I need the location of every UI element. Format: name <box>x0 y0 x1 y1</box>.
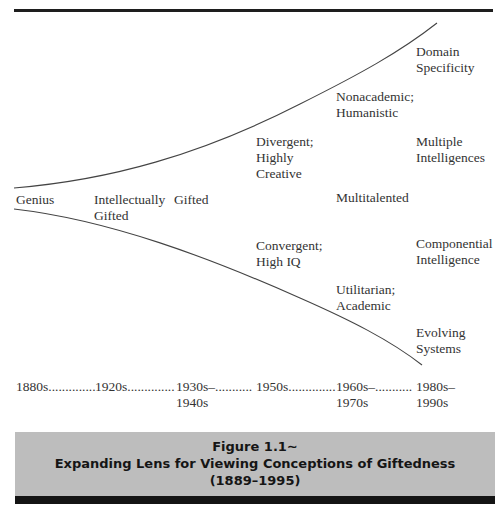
caption-figure-number: Figure 1.1∼ <box>15 438 495 455</box>
label-componential-intelligence: Componential Intelligence <box>416 236 493 268</box>
timeline-1950s: 1950s.............. <box>256 379 336 395</box>
caption-text: Figure 1.1∼ Expanding Lens for Viewing C… <box>15 438 495 489</box>
label-divergent-highly-creative: Divergent; Highly Creative <box>256 134 314 182</box>
label-convergent-high-iq: Convergent; High IQ <box>256 238 323 270</box>
timeline-1930s-1940s: 1930s–........... 1940s <box>176 379 252 411</box>
timeline-1920s: 1920s.............. <box>95 379 175 395</box>
label-domain-specificity: Domain Specificity <box>416 44 474 76</box>
timeline-1980s-1990s: 1980s– 1990s <box>416 379 455 411</box>
label-intellectually-gifted: Intellectually Gifted <box>94 192 165 224</box>
label-multitalented: Multitalented <box>336 190 409 206</box>
label-utilitarian-academic: Utilitarian; Academic <box>336 282 395 314</box>
timeline-1960s-1970s: 1960s–........... 1970s <box>336 379 412 411</box>
label-multiple-intelligences: Multiple Intelligences <box>416 134 485 166</box>
caption-title: Expanding Lens for Viewing Conceptions o… <box>15 455 495 472</box>
caption-bottom-bar <box>15 496 495 504</box>
timeline-1880s: 1880s.............. <box>16 379 96 395</box>
label-evolving-systems: Evolving Systems <box>416 325 466 357</box>
label-nonacademic-humanistic: Nonacademic; Humanistic <box>336 89 414 121</box>
caption-date-range: (1889–1995) <box>15 472 495 489</box>
figure-caption: Figure 1.1∼ Expanding Lens for Viewing C… <box>15 432 495 504</box>
label-genius: Genius <box>16 192 54 208</box>
label-gifted: Gifted <box>174 192 209 208</box>
